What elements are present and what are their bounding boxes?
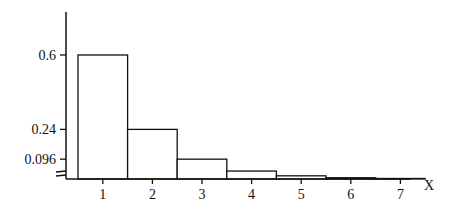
histogram-chart: 12345670.60.240.096X bbox=[0, 0, 453, 215]
axis-break-mark bbox=[56, 171, 66, 172]
x-axis-label: X bbox=[424, 178, 434, 193]
chart: 12345670.60.240.096X bbox=[0, 0, 453, 215]
bar-2 bbox=[128, 129, 178, 179]
x-tick-label: 1 bbox=[99, 187, 106, 202]
y-tick-label: 0.096 bbox=[25, 152, 57, 167]
x-tick-label: 3 bbox=[199, 187, 206, 202]
axis-break-mark bbox=[56, 175, 66, 176]
x-tick-label: 7 bbox=[397, 187, 404, 202]
x-tick-label: 5 bbox=[298, 187, 305, 202]
y-tick-label: 0.24 bbox=[32, 122, 57, 137]
x-tick-label: 6 bbox=[347, 187, 354, 202]
bar-3 bbox=[177, 159, 227, 179]
x-tick-label: 4 bbox=[248, 187, 255, 202]
x-tick-label: 2 bbox=[149, 187, 156, 202]
y-tick-label: 0.6 bbox=[39, 48, 57, 63]
bar-4 bbox=[227, 171, 277, 179]
bar-1 bbox=[78, 55, 128, 179]
